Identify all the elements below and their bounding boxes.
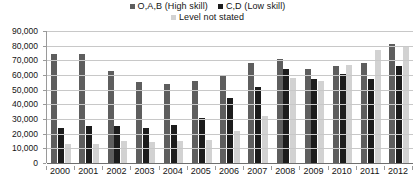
bar-group bbox=[385, 31, 413, 163]
x-axis-tick-mark bbox=[412, 166, 413, 170]
plot-wrapper: 90,00080,00070,00060,00050,00040,00030,0… bbox=[0, 0, 415, 186]
bar bbox=[121, 141, 127, 163]
y-axis-tick-label: 80,000 bbox=[12, 41, 38, 51]
bar bbox=[177, 141, 183, 163]
bar bbox=[79, 54, 85, 163]
x-axis: 2000200120022003200420052006200720082009… bbox=[46, 166, 412, 182]
bar-group bbox=[357, 31, 385, 163]
bar bbox=[51, 54, 57, 163]
x-axis-tick-label: 2001 bbox=[74, 166, 102, 182]
y-axis-tick-label: 90,000 bbox=[12, 26, 38, 36]
bar bbox=[290, 78, 296, 163]
bar bbox=[114, 126, 120, 163]
x-axis-tick-label: 2011 bbox=[356, 166, 384, 182]
x-axis-tick-label: 2002 bbox=[102, 166, 130, 182]
gridline bbox=[47, 31, 413, 32]
bar-group bbox=[244, 31, 272, 163]
x-axis-tick-label: 2004 bbox=[159, 166, 187, 182]
bar-group bbox=[160, 31, 188, 163]
gridline bbox=[47, 134, 413, 135]
bar bbox=[149, 142, 155, 163]
bar bbox=[192, 81, 198, 163]
x-axis-tick-mark bbox=[243, 166, 244, 170]
x-axis-tick-label: 2003 bbox=[130, 166, 158, 182]
y-axis-tick-label: 20,000 bbox=[12, 129, 38, 139]
bar-group bbox=[188, 31, 216, 163]
x-axis-tick-label: 2010 bbox=[328, 166, 356, 182]
bar bbox=[93, 144, 99, 163]
x-axis-tick-mark bbox=[102, 166, 103, 170]
bar-group bbox=[131, 31, 159, 163]
gridline bbox=[47, 75, 413, 76]
y-axis-tick-label: 30,000 bbox=[12, 114, 38, 124]
gridline bbox=[47, 119, 413, 120]
bar bbox=[65, 144, 71, 163]
bar bbox=[206, 140, 212, 163]
bar bbox=[311, 79, 317, 163]
bar bbox=[234, 131, 240, 163]
bar-group bbox=[216, 31, 244, 163]
x-axis-tick-label: 2006 bbox=[215, 166, 243, 182]
bar-group bbox=[329, 31, 357, 163]
x-axis-tick-mark bbox=[215, 166, 216, 170]
x-axis-tick-mark bbox=[130, 166, 131, 170]
gridline bbox=[47, 104, 413, 105]
bar bbox=[199, 118, 205, 163]
bar bbox=[262, 116, 268, 163]
bar bbox=[375, 50, 381, 163]
bar bbox=[255, 87, 261, 163]
y-axis-tick-label: 50,000 bbox=[12, 85, 38, 95]
x-axis-tick-label: 2000 bbox=[46, 166, 74, 182]
x-axis-tick-label: 2009 bbox=[299, 166, 327, 182]
y-axis-tick-label: 0 bbox=[33, 158, 38, 168]
x-axis-tick-mark bbox=[271, 166, 272, 170]
bar bbox=[164, 84, 170, 163]
bar-group bbox=[300, 31, 328, 163]
x-axis-tick-mark bbox=[159, 166, 160, 170]
gridline bbox=[47, 148, 413, 149]
y-axis-tick-mark bbox=[43, 163, 46, 164]
y-axis-tick-label: 70,000 bbox=[12, 55, 38, 65]
gridline bbox=[47, 90, 413, 91]
gridline bbox=[47, 46, 413, 47]
x-axis-tick-label: 2005 bbox=[187, 166, 215, 182]
x-axis-tick-label: 2008 bbox=[271, 166, 299, 182]
bar bbox=[136, 82, 142, 163]
gridline bbox=[47, 60, 413, 61]
x-axis-tick-label: 2012 bbox=[384, 166, 412, 182]
x-axis-tick-mark bbox=[299, 166, 300, 170]
bar bbox=[227, 98, 233, 163]
x-axis-tick-mark bbox=[356, 166, 357, 170]
x-axis-tick-mark bbox=[74, 166, 75, 170]
bar-group bbox=[103, 31, 131, 163]
plot-area bbox=[46, 31, 413, 163]
bar bbox=[171, 125, 177, 163]
y-axis-tick-label: 60,000 bbox=[12, 70, 38, 80]
x-axis-tick-mark bbox=[328, 166, 329, 170]
bar-group bbox=[47, 31, 75, 163]
bar bbox=[368, 79, 374, 163]
x-axis-tick-mark bbox=[384, 166, 385, 170]
bar bbox=[318, 81, 324, 163]
bars-layer bbox=[47, 31, 413, 163]
x-axis-line bbox=[47, 163, 413, 164]
bar bbox=[86, 126, 92, 163]
bar-chart: O,A,B (High skill) C,D (Low skill) Level… bbox=[0, 0, 415, 186]
x-axis-tick-mark bbox=[187, 166, 188, 170]
y-axis-tick-label: 40,000 bbox=[12, 99, 38, 109]
y-axis-tick-label: 10,000 bbox=[12, 143, 38, 153]
x-axis-tick-mark bbox=[46, 166, 47, 170]
x-axis-tick-label: 2007 bbox=[243, 166, 271, 182]
y-axis: 90,00080,00070,00060,00050,00040,00030,0… bbox=[0, 26, 42, 164]
bar-group bbox=[75, 31, 103, 163]
bar-group bbox=[272, 31, 300, 163]
